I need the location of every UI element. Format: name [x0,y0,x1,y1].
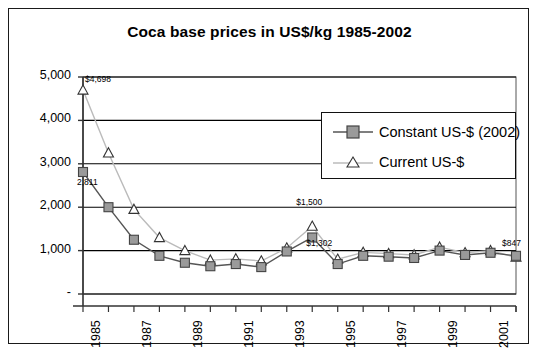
point-value-label: $4,698 [85,74,111,84]
point-value-label: $847 [502,238,521,248]
data-point-marker [359,251,368,260]
data-point-marker [333,260,342,269]
x-tick-label: 1985 [89,320,103,348]
data-point-marker [282,247,291,256]
x-tick-label: 1991 [242,320,256,348]
legend-label-constant: Constant US-$ (2002) [379,124,520,140]
x-tick-label: 1995 [344,320,358,348]
chart-frame: Coca base prices in US$/kg 1985-2002 5,0… [8,8,529,344]
legend-label-current: Current US-$ [379,154,464,170]
x-tick-label: 1987 [140,320,154,348]
legend-item-current: Current US-$ [322,149,517,175]
data-point-marker [384,252,393,261]
y-tick-label: 1,000 [13,242,71,256]
data-point-marker [461,250,470,259]
x-tick-label: 1989 [191,320,205,348]
chart-legend: Constant US-$ (2002) Current US-$ [321,112,516,179]
data-point-marker [79,168,88,177]
data-point-marker [231,260,240,269]
data-point-marker [410,253,419,262]
data-point-marker [129,235,138,244]
x-tick-label: 2001 [497,320,511,348]
x-tick-label: 1999 [446,320,460,348]
data-point-marker [155,251,164,260]
x-tick-label: 1993 [293,320,307,348]
data-point-marker [486,248,495,257]
data-point-marker [257,263,266,272]
point-value-label: 2,811 [77,177,98,187]
legend-item-constant: Constant US-$ (2002) [322,119,517,145]
data-point-marker [435,246,444,255]
triangle-marker [331,153,375,171]
data-point-marker [104,203,113,212]
data-point-marker [206,262,215,271]
y-tick-label: 3,000 [13,155,71,169]
point-value-label: $1,302 [306,238,332,248]
data-point-marker [180,258,189,267]
x-tick-label: 1997 [395,320,409,348]
y-tick-label: 5,000 [13,68,71,82]
point-value-label: $1,500 [296,197,322,207]
y-tick-label: 2,000 [13,198,71,212]
data-point-marker [512,251,521,260]
y-tick-label: 4,000 [13,111,71,125]
y-tick-label: - [13,285,71,299]
square-marker [331,123,375,141]
